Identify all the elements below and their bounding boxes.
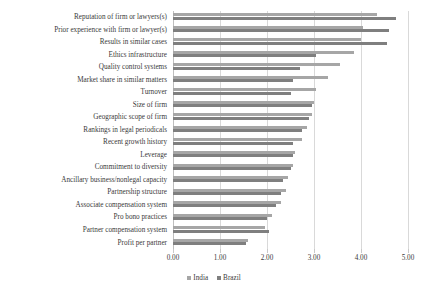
bar-group [173, 199, 408, 212]
category-label: Quality control systems [99, 63, 167, 71]
bar-brazil [173, 129, 302, 132]
category-label: Reputation of firm or lawyers(s) [74, 13, 167, 21]
category-label: Rankings in legal periodicals [83, 126, 167, 134]
bar-group [173, 24, 408, 37]
category-label: Partnership structure [107, 188, 167, 196]
category-label: Geographic scope of firm [93, 113, 167, 121]
legend-label-india: India [193, 274, 208, 282]
value-axis: 0.001.002.003.004.005.00 [173, 249, 408, 257]
bar-brazil [173, 230, 269, 233]
bar-group [173, 36, 408, 49]
bar-brazil [173, 17, 396, 20]
bar-brazil [173, 242, 246, 245]
axis-tick [314, 249, 315, 253]
bar-brazil [173, 29, 389, 32]
bar-brazil [173, 204, 276, 207]
axis-tick [361, 249, 362, 253]
bar-group [173, 136, 408, 149]
category-label: Profit per partner [118, 239, 168, 247]
bar-brazil [173, 192, 281, 195]
gridline [408, 11, 409, 249]
legend-item-brazil: Brazil [217, 274, 241, 282]
category-label: Partner compensation system [83, 226, 167, 234]
bar-brazil [173, 42, 387, 45]
category-label: Market share in similar matters [77, 76, 167, 84]
category-label: Recent growth history [103, 138, 167, 146]
bar-brazil [173, 217, 267, 220]
bar-group [173, 49, 408, 62]
bar-chart: Reputation of firm or lawyers(s)Prior ex… [0, 0, 428, 295]
legend-label-brazil: Brazil [223, 274, 241, 282]
category-label: Ancillary business/nonlegal capacity [61, 176, 167, 184]
bar-group [173, 111, 408, 124]
bar-group [173, 86, 408, 99]
bar-brazil [173, 67, 300, 70]
category-label: Results in similar cases [100, 38, 167, 46]
category-label: Ethics infrastructure [109, 51, 167, 59]
bar-group [173, 11, 408, 24]
bar-brazil [173, 117, 309, 120]
chart-legend: India Brazil [0, 274, 428, 282]
axis-tick-label: 0.00 [167, 254, 180, 262]
category-label: Leverage [140, 151, 167, 159]
bar-brazil [173, 54, 316, 57]
bar-group [173, 161, 408, 174]
category-label: Pro bono practices [114, 213, 168, 221]
bar-group [173, 224, 408, 237]
axis-tick-label: 3.00 [308, 254, 321, 262]
bar-group [173, 124, 408, 137]
bar-brazil [173, 92, 291, 95]
axis-tick [220, 249, 221, 253]
axis-tick [267, 249, 268, 253]
axis-tick-label: 2.00 [261, 254, 274, 262]
bar-group [173, 61, 408, 74]
bar-group [173, 211, 408, 224]
plot-area [173, 11, 408, 249]
category-label: Turnover [141, 88, 168, 96]
category-label: Size of firm [133, 101, 167, 109]
bar-brazil [173, 179, 283, 182]
bar-brazil [173, 142, 293, 145]
axis-tick-label: 5.00 [402, 254, 415, 262]
bar-brazil [173, 79, 293, 82]
category-axis-labels: Reputation of firm or lawyers(s)Prior ex… [0, 11, 170, 249]
legend-swatch-india-icon [187, 276, 191, 280]
axis-tick-label: 1.00 [214, 254, 227, 262]
bar-brazil [173, 154, 293, 157]
axis-tick [173, 249, 174, 253]
legend-item-india: India [187, 274, 208, 282]
axis-tick-label: 4.00 [355, 254, 368, 262]
bar-group [173, 74, 408, 87]
bar-group [173, 236, 408, 249]
category-label: Commitment to diversity [95, 163, 167, 171]
bar-group [173, 99, 408, 112]
bar-group [173, 174, 408, 187]
bar-group [173, 149, 408, 162]
axis-tick [408, 249, 409, 253]
bar-group [173, 186, 408, 199]
category-label: Associate compensation system [76, 201, 167, 209]
bar-brazil [173, 167, 291, 170]
legend-swatch-brazil-icon [217, 276, 221, 280]
bar-brazil [173, 104, 312, 107]
category-label: Prior experience with firm or lawyer(s) [54, 26, 167, 34]
